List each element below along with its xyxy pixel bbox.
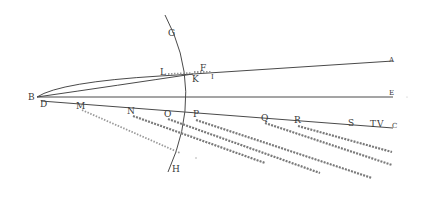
- label-H: H: [172, 164, 180, 174]
- label-I: I: [211, 73, 214, 81]
- label-K: K: [192, 74, 199, 84]
- label-P: P: [193, 109, 199, 119]
- label-M: M: [76, 101, 85, 111]
- label-O: O: [164, 109, 171, 119]
- hatched-ray-Q: [265, 123, 392, 165]
- label-C: C: [392, 122, 397, 130]
- line-BA: [37, 61, 393, 97]
- hatched-ray-N: [133, 116, 265, 163]
- label-B: B: [28, 92, 35, 102]
- hatched-ray-O: [168, 119, 320, 173]
- label-V: V: [376, 119, 384, 129]
- label-S: S: [348, 118, 354, 128]
- ink-speck: [406, 96, 407, 97]
- label-A: A: [388, 56, 395, 64]
- label-N: N: [127, 106, 135, 116]
- optics-diagram: G F L K I A E B D M N O P Q R S T V C H: [0, 0, 425, 197]
- label-T: T: [370, 119, 376, 129]
- label-L: L: [160, 67, 166, 77]
- label-Q: Q: [261, 113, 268, 123]
- label-R: R: [294, 115, 301, 125]
- label-E: E: [389, 89, 394, 97]
- label-G: G: [168, 28, 175, 38]
- label-D: D: [40, 99, 47, 109]
- label-F: F: [200, 63, 206, 73]
- ink-speck: [195, 157, 197, 159]
